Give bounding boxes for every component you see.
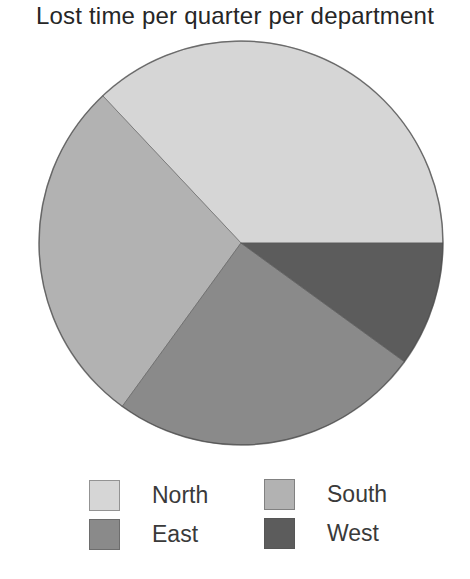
legend-swatch-south bbox=[264, 479, 295, 510]
legend-item-west: West bbox=[264, 518, 379, 549]
legend-label-east: East bbox=[152, 521, 198, 548]
legend-item-south: South bbox=[264, 479, 387, 510]
legend-item-north: North bbox=[89, 480, 208, 511]
legend-item-east: East bbox=[89, 519, 198, 550]
legend-swatch-north bbox=[89, 480, 120, 511]
legend-label-south: South bbox=[327, 481, 387, 508]
legend-swatch-west bbox=[264, 518, 295, 549]
legend: North South East West bbox=[0, 0, 470, 579]
legend-label-west: West bbox=[327, 520, 379, 547]
legend-swatch-east bbox=[89, 519, 120, 550]
legend-label-north: North bbox=[152, 482, 208, 509]
